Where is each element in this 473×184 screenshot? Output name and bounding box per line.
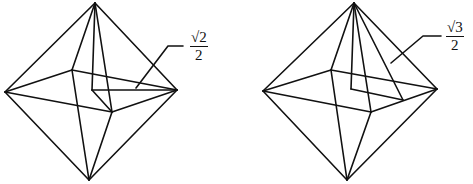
edge-bottom-back <box>72 70 89 180</box>
edge-bottom-right <box>347 89 437 180</box>
label-sqrt3-over-2: √3 2 <box>446 20 464 53</box>
leader-line <box>136 46 183 88</box>
label-numerator: √3 <box>446 20 464 37</box>
label-denominator: 2 <box>451 37 459 53</box>
edge-right-front <box>371 89 437 112</box>
construction-segment <box>351 89 403 100</box>
edge-top-back <box>72 3 95 70</box>
edge-bottom-back <box>331 70 347 180</box>
edge-top-left <box>263 3 354 91</box>
construction-segment <box>351 3 354 89</box>
diagram-canvas <box>0 0 473 184</box>
edge-bottom-right <box>89 90 177 180</box>
label-denominator: 2 <box>195 47 203 63</box>
octahedron-right <box>263 3 441 180</box>
construction-segment <box>92 3 95 90</box>
octahedron-left <box>5 3 183 180</box>
edge-top-left <box>5 3 95 92</box>
label-sqrt2-over-2: √2 2 <box>190 30 208 63</box>
edge-bottom-front <box>347 112 371 180</box>
label-numerator: √2 <box>190 30 208 47</box>
edge-bottom-front <box>89 112 112 180</box>
